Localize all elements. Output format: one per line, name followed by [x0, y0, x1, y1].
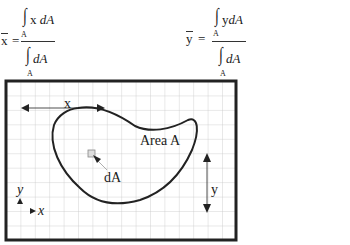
y-distance-label: y — [211, 182, 218, 198]
area-a-label: Area A — [140, 133, 180, 149]
axis-y-label: y — [17, 182, 23, 198]
x-distance-label: x — [64, 96, 71, 112]
centroid-diagram — [0, 0, 350, 245]
axis-x-label: x — [38, 203, 44, 219]
da-label: dA — [104, 170, 121, 186]
